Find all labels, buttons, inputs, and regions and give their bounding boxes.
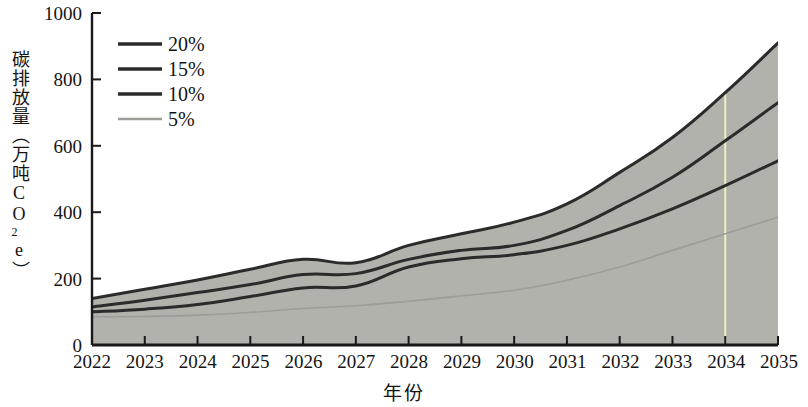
x-tick-label-2031: 2031	[549, 352, 587, 371]
x-tick-label-2030: 2030	[496, 352, 534, 371]
legend-label-15: 15%	[168, 58, 205, 81]
x-tick-label-2032: 2032	[602, 352, 640, 371]
x-tick-label-2034: 2034	[707, 352, 745, 371]
x-tick-label-2027: 2027	[337, 352, 375, 371]
y-tick-label-1000: 1000	[10, 4, 82, 23]
y-tick-label-800: 800	[10, 70, 82, 89]
x-tick-label-2029: 2029	[443, 352, 481, 371]
legend-label-10: 10%	[168, 83, 205, 106]
y-axis-title-subscript: 2	[7, 225, 21, 240]
chart-plot-area	[0, 0, 808, 407]
y-tick-label-0: 0	[10, 336, 82, 355]
legend-swatches	[118, 44, 162, 119]
y-tick-label-400: 400	[10, 203, 82, 222]
x-tick-label-2023: 2023	[126, 352, 164, 371]
x-tick-label-2025: 2025	[232, 352, 270, 371]
x-tick-label-2028: 2028	[390, 352, 428, 371]
y-tick-label-600: 600	[10, 136, 82, 155]
x-tick-label-2033: 2033	[654, 352, 692, 371]
chart-figure: 碳排放量（万吨CO2e） 1000 800 600 400 200 0 2022…	[0, 0, 808, 407]
y-axis-ticks	[92, 13, 101, 345]
legend-label-5: 5%	[168, 108, 195, 131]
x-tick-label-2035: 2035	[760, 352, 798, 371]
x-axis-title: 年份	[0, 378, 808, 405]
x-tick-label-2022: 2022	[73, 352, 111, 371]
y-tick-label-200: 200	[10, 269, 82, 288]
x-tick-label-2024: 2024	[179, 352, 217, 371]
legend-label-20: 20%	[168, 33, 205, 56]
x-tick-label-2026: 2026	[284, 352, 322, 371]
